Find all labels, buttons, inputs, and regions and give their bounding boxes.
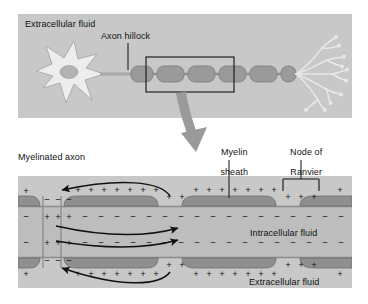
svg-text:−: − [306,237,312,248]
svg-text:−: − [55,194,61,205]
svg-text:+: + [166,259,172,270]
svg-text:+: + [193,184,199,195]
svg-text:−: − [274,237,280,248]
svg-text:+: + [206,268,212,279]
svg-text:+: + [140,268,146,279]
figure-root: + ++ ++ ++ + ++ ++ ++ ++ + ++ + + −− − −… [0,0,368,304]
label-extracellular-fluid-top: Extracellular fluid [25,19,95,29]
svg-text:−: − [322,211,328,222]
svg-text:+: + [311,191,317,202]
label-axon-hillock: Axon hillock [101,31,150,41]
svg-text:−: − [306,211,312,222]
svg-text:−: − [338,237,344,248]
svg-text:+: + [66,211,72,222]
svg-text:−: − [162,211,168,222]
svg-text:−: − [178,211,184,222]
svg-text:+: + [179,259,185,270]
svg-text:−: − [23,211,29,222]
svg-text:+: + [114,184,120,195]
nucleus [60,66,78,79]
svg-text:+: + [285,259,291,270]
svg-text:+: + [44,237,50,248]
label-intracellular-fluid: Intracellular fluid [250,228,317,238]
svg-text:+: + [232,268,238,279]
svg-text:−: − [23,237,29,248]
svg-text:−: − [146,211,152,222]
svg-text:−: − [274,211,280,222]
label-myelin-sheath-line1: Myelin [221,147,248,157]
svg-text:+: + [101,268,107,279]
svg-text:+: + [337,184,343,195]
svg-text:−: − [258,211,264,222]
charge-row-node-top-negative: −− − [44,194,72,205]
label-myelin-sheath-line2: sheath [220,167,248,177]
charge-row-node-bottom-negative: −− − [44,255,72,266]
label-myelinated-axon: Myelinated axon [18,152,85,162]
svg-text:+: + [298,191,304,202]
svg-text:−: − [66,194,72,205]
svg-text:+: + [55,237,61,248]
svg-text:−: − [98,211,104,222]
label-myelin-sheath: Myelin sheath [208,137,250,187]
svg-text:+: + [127,268,133,279]
svg-text:+: + [140,184,146,195]
svg-text:−: − [82,237,88,248]
svg-text:−: − [55,255,61,266]
label-node-of-ranvier-line1: Node of [290,147,322,157]
svg-text:−: − [322,237,328,248]
svg-text:−: − [242,237,248,248]
svg-text:−: − [178,237,184,248]
svg-text:+: + [193,268,199,279]
svg-text:+: + [258,184,264,195]
svg-text:−: − [210,237,216,248]
svg-text:+: + [114,268,120,279]
svg-text:+: + [298,259,304,270]
svg-text:−: − [44,255,50,266]
svg-text:−: − [114,211,120,222]
svg-text:+: + [23,268,29,279]
svg-text:−: − [258,237,264,248]
svg-text:−: − [290,237,296,248]
svg-text:−: − [226,211,232,222]
svg-text:+: + [219,268,225,279]
svg-text:+: + [127,184,133,195]
svg-text:+: + [337,268,343,279]
svg-text:+: + [285,191,291,202]
svg-text:+: + [311,259,317,270]
svg-text:+: + [153,268,159,279]
svg-text:−: − [82,211,88,222]
svg-text:−: − [290,211,296,222]
svg-text:+: + [55,211,61,222]
svg-text:−: − [242,211,248,222]
svg-text:+: + [44,211,50,222]
svg-text:−: − [66,255,72,266]
label-extracellular-fluid-bottom: Extracellular fluid [249,277,319,287]
svg-text:−: − [194,237,200,248]
svg-text:−: − [338,211,344,222]
svg-text:+: + [23,185,29,196]
svg-text:+: + [179,191,185,202]
svg-text:+: + [75,184,81,195]
svg-text:−: − [194,211,200,222]
svg-text:+: + [101,184,107,195]
label-node-of-ranvier: Node of Ranvier [277,137,325,187]
svg-text:−: − [44,194,50,205]
svg-text:−: − [210,211,216,222]
svg-text:−: − [130,211,136,222]
label-node-of-ranvier-line2: Ranvier [290,167,322,177]
svg-text:−: − [226,237,232,248]
